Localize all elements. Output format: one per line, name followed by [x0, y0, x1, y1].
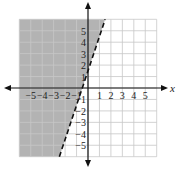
y-tick-label: −2 — [75, 106, 86, 117]
y-tick-label: 5 — [81, 26, 86, 37]
x-axis-left-arrow-icon — [4, 85, 11, 91]
y-axis-up-arrow-icon — [85, 2, 91, 9]
x-tick-label: −2 — [60, 90, 71, 101]
x-tick-label: 5 — [143, 90, 148, 101]
y-tick-label: 2 — [81, 60, 86, 71]
y-tick-label: −5 — [75, 140, 86, 151]
y-tick-label: −3 — [75, 117, 86, 128]
x-axis-label: x — [169, 82, 175, 94]
y-tick-label: 3 — [81, 49, 86, 60]
graph-canvas: −5−4−3−2−112345−5−4−3−2−112345 x — [0, 0, 177, 169]
x-tick-label: 2 — [108, 90, 113, 101]
x-tick-label: 3 — [120, 90, 125, 101]
x-tick-label: −3 — [48, 90, 59, 101]
y-tick-label: 4 — [81, 37, 86, 48]
x-tick-label: 4 — [131, 90, 136, 101]
x-axis-right-arrow-icon — [161, 85, 168, 91]
x-tick-label: −5 — [25, 90, 36, 101]
x-tick-label: −4 — [37, 90, 48, 101]
y-tick-label: −1 — [75, 94, 86, 105]
y-axis-down-arrow-icon — [85, 160, 91, 167]
x-tick-label: 1 — [97, 90, 102, 101]
y-tick-label: −4 — [75, 129, 86, 140]
y-tick-label: 1 — [81, 72, 86, 83]
